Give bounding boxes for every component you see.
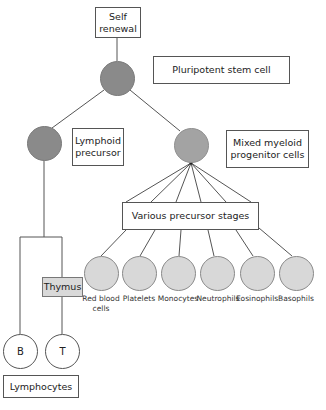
t-cell-label: T <box>59 346 65 357</box>
monocyte-node <box>161 256 196 291</box>
lymphocytes-label: Lymphocytes <box>10 381 73 393</box>
lymphoid-line1: Lymphoid <box>75 135 121 147</box>
eosinophil-node <box>240 256 275 291</box>
self-renewal-line1: Self <box>99 11 137 23</box>
thymus-box: Thymus <box>42 277 83 297</box>
red-blood-cell-label: Red blood cells <box>82 294 119 314</box>
lymphocytes-box: Lymphocytes <box>3 375 79 398</box>
myeloid-progenitor-node <box>174 128 209 163</box>
lymphoid-precursor-box: Lymphoid precursor <box>72 128 124 166</box>
myeloid-line2: progenitor cells <box>231 149 305 161</box>
myeloid-progenitor-box: Mixed myeloid progenitor cells <box>226 130 309 168</box>
myeloid-line1: Mixed myeloid <box>231 137 305 149</box>
self-renewal-box: Self renewal <box>95 7 141 38</box>
neutrophil-node <box>200 256 235 291</box>
basophil-node <box>279 256 314 291</box>
platelet-node <box>122 256 157 291</box>
neutrophil-label: Neutrophils <box>196 294 239 304</box>
pluripotent-stem-cell-box: Pluripotent stem cell <box>153 56 290 84</box>
t-cell-node: T <box>45 334 80 369</box>
lymphoid-line2: precursor <box>75 147 121 159</box>
thymus-label: Thymus <box>44 281 82 293</box>
precursor-stages-box: Various precursor stages <box>122 202 259 230</box>
eosinophil-label: Eosinophils <box>236 294 278 304</box>
pluripotent-stem-cell-node <box>100 61 135 96</box>
precursor-stages-label: Various precursor stages <box>132 210 250 222</box>
lymphoid-precursor-node <box>27 126 62 161</box>
pluripotent-stem-cell-label: Pluripotent stem cell <box>172 64 270 76</box>
red-blood-cell-node <box>84 256 119 291</box>
basophil-label: Basophils <box>278 294 314 304</box>
platelet-label: Platelets <box>123 294 155 304</box>
b-cell-label: B <box>17 346 24 357</box>
monocyte-label: Monocytes <box>158 294 198 304</box>
self-renewal-line2: renewal <box>99 23 137 35</box>
b-cell-node: B <box>3 334 38 369</box>
